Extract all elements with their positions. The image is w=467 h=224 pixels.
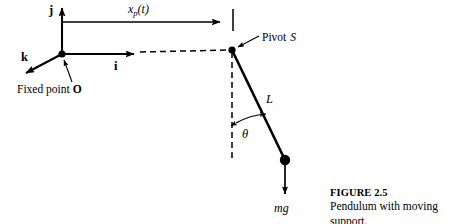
label-fixed-point: Fixed pointO <box>17 84 82 96</box>
label-unit-vector-k: k <box>21 51 28 64</box>
angle-arc-theta <box>236 114 266 123</box>
label-angle-theta: θ <box>242 128 248 141</box>
label-support-displacement: xp(t) <box>128 3 149 17</box>
label-rod-length: L <box>266 93 273 106</box>
pendulum-rod <box>232 50 285 160</box>
label-unit-vector-j: j <box>49 4 53 17</box>
figure-caption-text: Pendulum with moving support. <box>330 199 465 224</box>
label-pivot-name: S <box>286 31 296 43</box>
figure-caption-title: FIGURE 2.5 <box>330 186 465 199</box>
fixed-point-marker <box>58 50 65 57</box>
fixed-point-leader-line <box>64 60 72 82</box>
axis-k-line <box>26 54 62 73</box>
label-pivot: PivotS <box>262 32 296 44</box>
label-xp-argument: (t) <box>138 2 149 16</box>
dashed-horizontal-reference <box>140 50 231 52</box>
label-fixed-point-name: O <box>70 83 82 95</box>
label-fixed-point-text: Fixed point <box>17 83 70 95</box>
label-pivot-text: Pivot <box>262 31 286 43</box>
figure-pendulum-with-moving-support: j i k xp(t) Fixed pointO PivotS L θ mg F… <box>0 0 467 224</box>
pivot-point-marker <box>228 46 235 53</box>
pivot-leader-line <box>238 36 259 47</box>
figure-caption: FIGURE 2.5 Pendulum with moving support. <box>330 186 465 224</box>
label-weight-force: mg <box>274 202 289 214</box>
label-unit-vector-i: i <box>114 60 117 73</box>
